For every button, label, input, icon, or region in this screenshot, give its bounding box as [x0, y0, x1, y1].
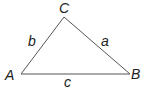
vertex-label-c: C [59, 0, 70, 16]
triangle-diagram: A B C a b c [0, 0, 148, 89]
side-label-c: c [64, 74, 71, 89]
vertex-label-a: A [4, 67, 14, 83]
vertex-label-b: B [131, 66, 140, 82]
side-label-a: a [101, 33, 109, 49]
triangle-abc [21, 17, 130, 74]
side-label-b: b [28, 33, 36, 49]
